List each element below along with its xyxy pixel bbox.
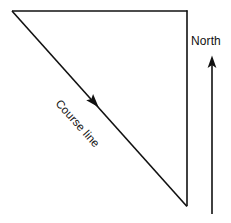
course-line-path (12, 11, 187, 207)
north-label: North (191, 34, 221, 48)
diagram-canvas: North Course line (0, 0, 231, 223)
course-line-label: Course line (54, 97, 103, 149)
course-line-diagram: North Course line (0, 0, 231, 223)
